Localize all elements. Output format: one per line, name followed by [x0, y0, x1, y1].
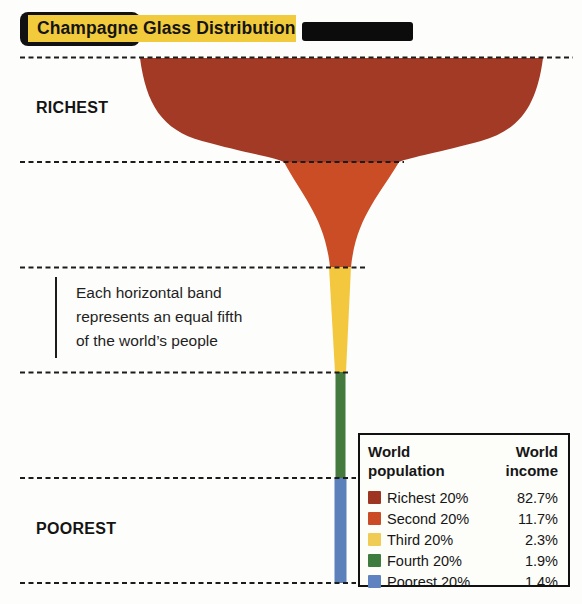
band-third: [329, 267, 351, 372]
title-banner: Champagne Glass Distribution: [28, 15, 296, 42]
legend-label: Second 20%: [387, 511, 518, 527]
annotation-bracket-line: [55, 277, 57, 358]
legend-value: 2.3%: [525, 532, 558, 548]
poorest-swatch-icon: [368, 575, 381, 588]
legend-value: 82.7%: [517, 490, 558, 506]
legend-header-population: World population: [368, 442, 445, 480]
legend-label: Richest 20%: [387, 490, 517, 506]
annotation-line-3: of the world’s people: [76, 329, 242, 353]
band-fourth: [336, 372, 346, 478]
richest-swatch-icon: [368, 491, 381, 504]
annotation-line-1: Each horizontal band: [76, 281, 242, 305]
legend-box: World population World income Richest 20…: [358, 433, 570, 587]
legend-row-poorest: Poorest 20% 1.4%: [368, 571, 558, 592]
legend-value: 1.4%: [525, 574, 558, 590]
poorest-label: POOREST: [36, 520, 116, 538]
legend-label: Third 20%: [387, 532, 525, 548]
annotation-text: Each horizontal band represents an equal…: [76, 281, 242, 353]
second-swatch-icon: [368, 512, 381, 525]
richest-label: RICHEST: [36, 99, 108, 117]
legend-header: World population World income: [368, 442, 558, 480]
legend-value: 1.9%: [525, 553, 558, 569]
title-redacted-bar: [302, 22, 413, 41]
legend-header-income: World income: [505, 442, 558, 480]
legend-value: 11.7%: [518, 511, 558, 527]
legend-label: Poorest 20%: [387, 574, 525, 590]
legend-row-fourth: Fourth 20% 1.9%: [368, 550, 558, 571]
legend-row-third: Third 20% 2.3%: [368, 529, 558, 550]
legend-row-richest: Richest 20% 82.7%: [368, 487, 558, 508]
fourth-swatch-icon: [368, 554, 381, 567]
band-poorest: [335, 478, 347, 583]
third-swatch-icon: [368, 533, 381, 546]
annotation-line-2: represents an equal fifth: [76, 305, 242, 329]
legend-row-second: Second 20% 11.7%: [368, 508, 558, 529]
page-title: Champagne Glass Distribution: [37, 18, 296, 39]
band-second: [284, 162, 399, 267]
legend-label: Fourth 20%: [387, 553, 525, 569]
champagne-glass-chart: Champagne Glass Distribution RICHEST POO…: [0, 0, 582, 604]
band-richest: [140, 58, 543, 162]
